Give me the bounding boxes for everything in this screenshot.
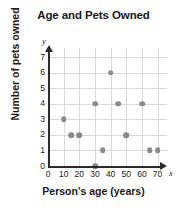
data-point (77, 132, 83, 138)
data-point (116, 101, 122, 107)
gridline-horizontal (48, 135, 167, 136)
y-tick-label: 1 (36, 145, 45, 155)
x-tick-label: 0 (40, 169, 56, 179)
x-tick-label: 20 (71, 169, 87, 179)
x-tick-label: 30 (87, 169, 103, 179)
y-axis-line (48, 52, 50, 167)
x-tick-label: 40 (103, 169, 119, 179)
y-tick-label: 4 (36, 98, 45, 108)
gridline-horizontal (48, 57, 167, 58)
chart-figure: Age and Pets Owned Number of pets owned … (0, 0, 187, 215)
gridline-vertical (79, 48, 80, 166)
x-tick-label: 60 (134, 169, 150, 179)
y-tick-label: 7 (36, 52, 45, 62)
plot-area (48, 48, 167, 166)
x-axis-variable: x (169, 168, 173, 178)
gridline-vertical (142, 48, 143, 166)
data-point (61, 117, 67, 123)
data-point (155, 148, 161, 154)
x-tick-label: 70 (150, 169, 166, 179)
y-tick-label: 2 (36, 129, 45, 139)
data-point (69, 132, 75, 138)
x-axis-label: Person's age (years) (0, 185, 187, 197)
gridline-horizontal (48, 88, 167, 89)
y-tick-label: 5 (36, 83, 45, 93)
y-tick-label: 3 (36, 114, 45, 124)
x-tick-label: 10 (56, 169, 72, 179)
chart-title: Age and Pets Owned (0, 9, 187, 21)
y-axis-arrow-icon (45, 45, 53, 52)
gridline-horizontal (48, 104, 167, 105)
x-axis-line (48, 166, 161, 168)
x-tick-label: 50 (118, 169, 134, 179)
data-point (92, 101, 98, 107)
gridline-vertical (95, 48, 96, 166)
y-tick-label: 0 (36, 161, 45, 171)
y-tick-label: 6 (36, 67, 45, 77)
data-point (147, 148, 153, 154)
gridline-vertical (126, 48, 127, 166)
data-point (123, 132, 129, 138)
y-axis-label: Number of pets owned (9, 4, 21, 124)
gridline-vertical (111, 48, 112, 166)
data-point (139, 101, 145, 107)
data-point (100, 148, 106, 154)
gridline-vertical (64, 48, 65, 166)
y-axis-variable: y (42, 36, 46, 46)
data-point (108, 70, 114, 76)
